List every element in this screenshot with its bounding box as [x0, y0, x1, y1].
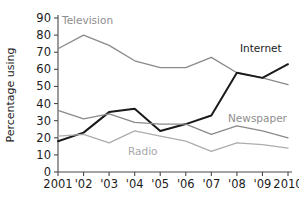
x-tick-label: '05: [151, 177, 169, 191]
y-tick-label: 60: [36, 62, 51, 76]
series-label-television: Television: [61, 14, 113, 26]
y-tick-label: 20: [36, 131, 51, 145]
x-tick-label: '03: [100, 177, 118, 191]
y-tick-label: 10: [36, 148, 51, 162]
x-tick-label: '08: [228, 177, 246, 191]
chart-canvas: 0102030405060708090 2001'02'03'04'05'06'…: [0, 0, 299, 203]
series-label-internet: Internet: [240, 42, 282, 54]
x-tick-label: '04: [126, 177, 144, 191]
series-label-radio: Radio: [128, 145, 158, 157]
x-axis: 2001'02'03'04'05'06'07'08'092010: [43, 172, 299, 191]
series-labels: TelevisionInternetNewspaperRadio: [61, 14, 288, 157]
x-tick-label: '07: [202, 177, 220, 191]
x-tick-label: 2001: [43, 177, 72, 191]
x-tick-label: '02: [75, 177, 93, 191]
y-axis: 0102030405060708090: [36, 11, 58, 179]
y-axis-title-text: Percentage using: [4, 47, 17, 142]
y-tick-label: 50: [36, 79, 51, 93]
y-tick-label: 80: [36, 28, 51, 42]
y-tick-label: 30: [36, 114, 51, 128]
x-tick-label: 2010: [273, 177, 299, 191]
y-tick-label: 70: [36, 45, 51, 59]
series-line-radio: [58, 131, 288, 152]
line-chart: 0102030405060708090 2001'02'03'04'05'06'…: [0, 0, 299, 203]
y-tick-label: 90: [36, 11, 51, 25]
series-label-newspaper: Newspaper: [228, 112, 288, 124]
y-tick-label: 40: [36, 97, 51, 111]
y-axis-title: Percentage using: [4, 47, 17, 142]
x-tick-label: '09: [254, 177, 272, 191]
x-tick-label: '06: [177, 177, 195, 191]
